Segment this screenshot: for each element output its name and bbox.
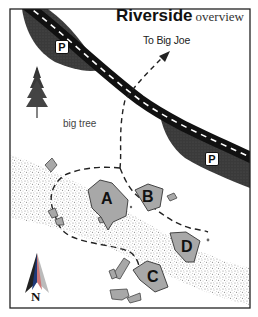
boulder-d-label: D bbox=[181, 238, 193, 256]
title-subtitle: overview bbox=[196, 9, 244, 24]
boulder-a-label: A bbox=[101, 190, 113, 208]
parking-icon-east: P bbox=[205, 152, 219, 166]
parking-label: P bbox=[58, 41, 65, 53]
small-rock bbox=[167, 193, 177, 201]
trail-arrowhead bbox=[159, 51, 170, 62]
tree-label: big tree bbox=[63, 118, 96, 129]
river bbox=[10, 155, 250, 305]
north-label: N bbox=[31, 289, 40, 305]
small-rock bbox=[110, 289, 129, 300]
map-title: Riversideoverview bbox=[116, 6, 244, 26]
small-rock bbox=[207, 239, 210, 242]
parking-label: P bbox=[208, 153, 215, 165]
tree-icon bbox=[26, 66, 48, 118]
destination-label: To Big Joe bbox=[143, 34, 190, 46]
small-rock bbox=[130, 206, 132, 208]
boulder-c-label: C bbox=[147, 268, 159, 286]
road bbox=[25, 4, 258, 162]
north-arrow-icon bbox=[25, 253, 49, 293]
map-canvas bbox=[0, 0, 258, 317]
small-rock bbox=[127, 293, 141, 303]
title-main: Riverside bbox=[116, 6, 193, 25]
parking-icon-north: P bbox=[55, 40, 69, 54]
boulder-b-label: B bbox=[142, 188, 154, 206]
